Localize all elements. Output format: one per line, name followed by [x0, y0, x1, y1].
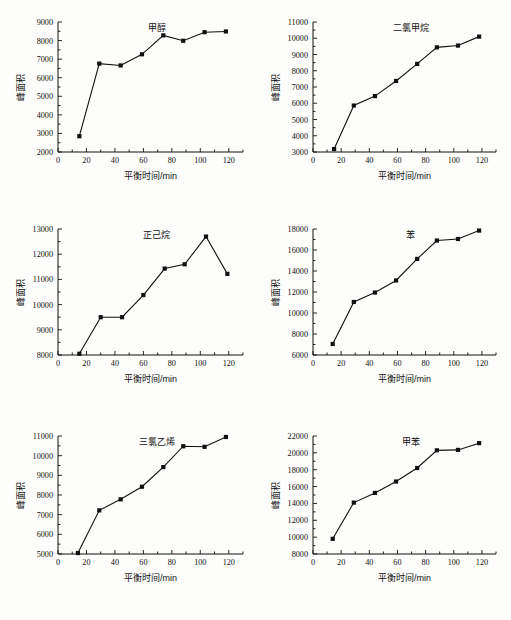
- chart-title-5: 甲苯: [402, 436, 420, 447]
- y-tick-label: 8000: [37, 491, 53, 500]
- data-markers-3: [331, 228, 482, 346]
- data-point-marker: [181, 444, 185, 448]
- data-point-marker: [119, 497, 123, 501]
- x-tick-label: 80: [422, 359, 430, 368]
- series-line-3: [333, 231, 479, 344]
- data-point-marker: [119, 63, 123, 67]
- y-tick-label: 10000: [33, 452, 53, 461]
- x-tick-label: 60: [139, 156, 147, 165]
- y-tick-label: 8000: [292, 330, 308, 339]
- series-line-1: [334, 37, 479, 149]
- data-point-marker: [224, 435, 228, 439]
- y-tick-label: 3000: [292, 148, 308, 157]
- data-point-marker: [435, 45, 439, 49]
- x-tick-label: 0: [56, 558, 60, 567]
- chart-svg-0: 2000300040005000600070008000900002040608…: [0, 0, 256, 207]
- x-tick-label: 60: [393, 156, 401, 165]
- x-tick-label: 60: [139, 359, 147, 368]
- x-tick-label: 0: [56, 156, 60, 165]
- chart-title-1: 二氯甲烷: [393, 22, 429, 33]
- chart-svg-3: 6000800010000120001400016000180000204060…: [256, 207, 511, 414]
- y-tick-label: 10000: [288, 533, 308, 542]
- y-axis-label-5: 峰面积: [270, 482, 281, 509]
- x-tick-label: 40: [111, 156, 119, 165]
- data-markers-0: [77, 29, 228, 138]
- y-tick-label: 10000: [288, 309, 308, 318]
- chart-svg-2: 8000900010000110001200013000020406080100…: [0, 207, 256, 414]
- data-point-marker: [352, 500, 356, 504]
- x-tick-label: 100: [448, 558, 460, 567]
- y-axis-label-1: 峰面积: [270, 74, 281, 101]
- series-line-4: [78, 437, 226, 553]
- y-tick-label: 3000: [37, 129, 53, 138]
- axes-5: [313, 436, 496, 554]
- x-axis-ticks-5: 020406080100120: [311, 550, 496, 567]
- series-line-5: [333, 443, 479, 539]
- y-axis-label-3: 峰面积: [270, 279, 281, 306]
- y-tick-label: 5000: [292, 116, 308, 125]
- data-point-marker: [373, 94, 377, 98]
- x-tick-label: 60: [393, 558, 401, 567]
- data-point-marker: [181, 39, 185, 43]
- chart-panel-5: 8000100001200014000160001800020000220000…: [256, 414, 511, 620]
- y-tick-label: 4000: [292, 132, 308, 141]
- x-tick-label: 20: [337, 156, 345, 165]
- x-tick-label: 100: [194, 359, 206, 368]
- x-tick-label: 0: [311, 156, 315, 165]
- x-axis-label-3: 平衡时间/min: [378, 373, 431, 384]
- chart-panel-1: 3000400050006000700080009000100001100002…: [256, 0, 511, 207]
- data-markers-2: [77, 234, 229, 355]
- x-tick-label: 80: [168, 558, 176, 567]
- x-axis-ticks-1: 020406080100120: [311, 148, 496, 165]
- data-point-marker: [77, 134, 81, 138]
- y-tick-label: 6000: [37, 530, 53, 539]
- x-axis-label-5: 平衡时间/min: [378, 572, 431, 583]
- data-point-marker: [456, 43, 460, 47]
- y-tick-label: 13000: [33, 225, 53, 234]
- axes-3: [313, 229, 496, 355]
- y-tick-label: 2000: [37, 148, 53, 157]
- data-point-marker: [332, 147, 336, 151]
- data-point-marker: [183, 262, 187, 266]
- data-point-marker: [415, 257, 419, 261]
- data-point-marker: [97, 62, 101, 66]
- y-tick-label: 10000: [33, 301, 53, 310]
- data-markers-5: [331, 441, 482, 541]
- x-tick-label: 80: [168, 359, 176, 368]
- y-tick-label: 8000: [292, 550, 308, 559]
- data-markers-4: [76, 435, 228, 555]
- x-tick-label: 40: [365, 558, 373, 567]
- x-tick-label: 100: [194, 558, 206, 567]
- y-tick-label: 11000: [33, 275, 53, 284]
- data-point-marker: [140, 52, 144, 56]
- x-tick-label: 20: [82, 558, 90, 567]
- y-tick-label: 9000: [37, 326, 53, 335]
- chart-panel-3: 6000800010000120001400016000180000204060…: [256, 207, 511, 414]
- series-line-0: [79, 31, 226, 136]
- chart-svg-1: 3000400050006000700080009000100001100002…: [256, 0, 511, 207]
- data-point-marker: [415, 62, 419, 66]
- x-tick-label: 80: [422, 558, 430, 567]
- y-tick-label: 11000: [33, 432, 53, 441]
- chart-title-0: 甲醇: [148, 22, 166, 33]
- data-point-marker: [140, 485, 144, 489]
- y-tick-label: 22000: [288, 432, 308, 441]
- data-point-marker: [202, 445, 206, 449]
- y-tick-label: 7000: [37, 55, 53, 64]
- x-axis-label-4: 平衡时间/min: [124, 572, 177, 583]
- x-tick-label: 60: [139, 558, 147, 567]
- y-tick-label: 16000: [288, 483, 308, 492]
- x-tick-label: 20: [337, 359, 345, 368]
- x-axis-ticks-0: 020406080100120: [56, 148, 243, 165]
- data-markers-1: [332, 35, 481, 152]
- x-axis-label-2: 平衡时间/min: [124, 373, 177, 384]
- y-tick-label: 18000: [288, 225, 308, 234]
- data-point-marker: [97, 508, 101, 512]
- axes-2: [58, 229, 243, 355]
- data-point-marker: [352, 300, 356, 304]
- data-point-marker: [202, 30, 206, 34]
- y-tick-label: 14000: [288, 499, 308, 508]
- data-point-marker: [477, 441, 481, 445]
- y-tick-label: 9000: [292, 51, 308, 60]
- y-tick-label: 11000: [288, 18, 308, 27]
